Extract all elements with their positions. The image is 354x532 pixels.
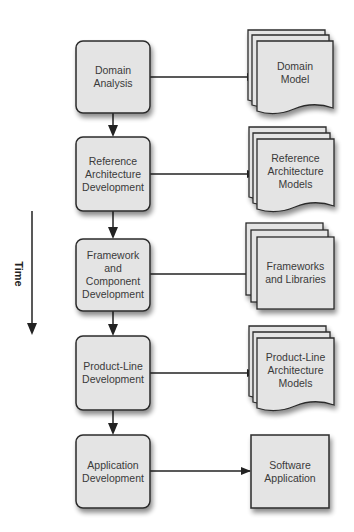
process-domain-analysis: Domain Analysis [76, 41, 150, 113]
process-framework-component-development: Framework and Component Development [76, 239, 150, 311]
process-application-development: Application Development [76, 435, 150, 508]
artifact-reference-architecture-models: Reference Architecture Models [257, 139, 334, 203]
artifact-software-application: Software Application [251, 435, 329, 508]
artifact-domain-model: Domain Model [257, 41, 333, 105]
artifact-product-line-architecture-models: Product-Line Architecture Models [257, 338, 334, 402]
process-reference-architecture-development: Reference Architecture Development [76, 137, 150, 211]
artifact-frameworks-and-libraries: Frameworks and Libraries [257, 237, 334, 309]
process-product-line-development: Product-Line Development [76, 336, 150, 410]
time-axis-label: Time [6, 254, 32, 294]
output-arrows [150, 77, 256, 471]
time-axis-text: Time [13, 261, 25, 286]
